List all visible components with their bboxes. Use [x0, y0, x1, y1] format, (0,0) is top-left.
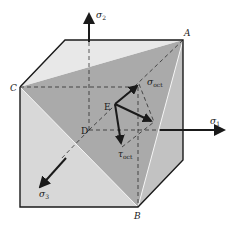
point-label-e: E: [104, 102, 111, 112]
point-label-d: D: [81, 126, 88, 136]
vertex-label-c: C: [10, 83, 17, 93]
sigma2-label: σ2: [96, 10, 106, 21]
stress-cube-diagram: A B C D E σ2 σ1 σ3 σoct τoct: [0, 0, 246, 229]
sigma1-label: σ1: [210, 116, 220, 127]
vertex-label-a: A: [183, 28, 191, 38]
vertex-label-b: B: [133, 211, 141, 221]
